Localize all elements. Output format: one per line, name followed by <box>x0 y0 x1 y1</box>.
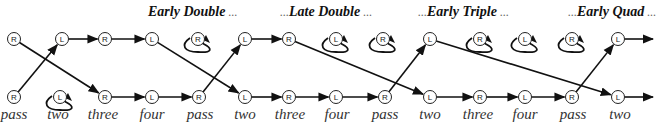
left-hand-node-hold: L <box>322 33 348 53</box>
passing-pattern-diagram: RLRLRLRLRLRLRLRLRLRLRLRLRLRL Early Doubl… <box>0 0 668 129</box>
phase-suffix: ... <box>644 5 656 19</box>
hand-letter: R <box>382 93 388 102</box>
hand-letter: L <box>150 35 155 44</box>
hand-letter: L <box>334 93 339 102</box>
transition-arrow <box>389 45 425 92</box>
hand-letter: L <box>428 93 433 102</box>
right-hand-node: R <box>379 91 392 104</box>
right-hand-node: R <box>8 33 21 46</box>
phase-name: Early Double <box>148 4 225 19</box>
phase-header: Early Double ... <box>148 4 237 20</box>
hand-letter: R <box>11 93 17 102</box>
hand-letter: R <box>195 35 201 44</box>
right-hand-node: R <box>193 91 206 104</box>
right-hand-node: R <box>566 91 579 104</box>
right-hand-node-hold: R <box>466 33 492 53</box>
throw-label: four <box>324 106 349 123</box>
left-hand-node-hold: L <box>511 33 537 53</box>
transition-arrow <box>18 45 57 92</box>
throw-label: four <box>512 106 537 123</box>
hand-letter: L <box>523 93 528 102</box>
left-hand-node: L <box>56 33 69 46</box>
nodes-layer: RLRLRLRLRLRLRLRLRLRLRLRLRLRL <box>8 33 625 111</box>
left-hand-node: L <box>612 33 625 46</box>
transition-arrow <box>158 42 239 93</box>
hand-letter: R <box>477 93 483 102</box>
left-hand-node: L <box>424 33 437 46</box>
hand-letter: L <box>616 35 621 44</box>
hand-letter: L <box>334 35 339 44</box>
throw-label: pass <box>1 106 28 123</box>
right-hand-node: R <box>474 91 487 104</box>
phase-name: Late Double <box>289 4 360 19</box>
hand-letter: L <box>243 93 248 102</box>
left-hand-node: L <box>612 91 625 104</box>
transition-arrow <box>295 41 423 94</box>
phase-header: ...Early Triple ... <box>418 4 509 20</box>
hand-letter: R <box>196 93 202 102</box>
hand-letter: L <box>428 35 433 44</box>
throw-label: three <box>88 106 118 123</box>
hand-letter: R <box>102 35 108 44</box>
throw-label: two <box>234 106 256 123</box>
phase-prefix: ... <box>418 5 427 19</box>
hand-letter: R <box>11 35 17 44</box>
left-hand-node: L <box>424 91 437 104</box>
hand-letter: L <box>60 35 65 44</box>
right-hand-node: R <box>8 91 21 104</box>
transition-arrow <box>19 42 98 92</box>
right-hand-node: R <box>99 91 112 104</box>
right-hand-node: R <box>99 33 112 46</box>
throw-label: pass <box>372 106 399 123</box>
left-hand-node: L <box>146 91 159 104</box>
throw-label: pass <box>187 106 214 123</box>
hand-letter: R <box>569 35 575 44</box>
throw-label: two <box>609 106 631 123</box>
hand-letter: R <box>477 35 483 44</box>
throw-label: three <box>275 106 305 123</box>
throw-label: two <box>47 106 69 123</box>
throw-label: pass <box>560 106 587 123</box>
phase-suffix: ... <box>225 5 237 19</box>
phase-name: Early Quad <box>577 4 644 19</box>
left-hand-node: L <box>519 91 532 104</box>
right-hand-node-hold: R <box>184 33 210 53</box>
phase-header: ...Early Quad ... <box>568 4 656 20</box>
right-hand-node-hold: R <box>369 33 395 53</box>
hand-letter: L <box>243 35 248 44</box>
right-hand-node: R <box>283 91 296 104</box>
phase-prefix: ... <box>280 5 289 19</box>
throw-label: four <box>139 106 164 123</box>
left-hand-node: L <box>239 91 252 104</box>
phase-name: Early Triple <box>427 4 497 19</box>
right-hand-node-hold: R <box>558 33 584 53</box>
phase-suffix: ... <box>360 5 372 19</box>
hand-letter: L <box>150 93 155 102</box>
phase-header: ...Late Double ... <box>280 4 372 20</box>
hand-letter: L <box>616 93 621 102</box>
hand-letter: R <box>569 93 575 102</box>
phase-prefix: ... <box>568 5 577 19</box>
edges-layer <box>18 39 653 97</box>
right-hand-node: R <box>283 33 296 46</box>
hand-letter: R <box>380 35 386 44</box>
hand-letter: L <box>58 93 63 102</box>
throw-label: three <box>463 106 493 123</box>
hand-letter: R <box>102 93 108 102</box>
left-hand-node: L <box>239 33 252 46</box>
left-hand-node: L <box>330 91 343 104</box>
phase-suffix: ... <box>497 5 509 19</box>
hand-letter: L <box>523 35 528 44</box>
throw-label: two <box>419 106 441 123</box>
hand-letter: R <box>286 35 292 44</box>
hand-letter: R <box>286 93 292 102</box>
left-hand-node: L <box>146 33 159 46</box>
